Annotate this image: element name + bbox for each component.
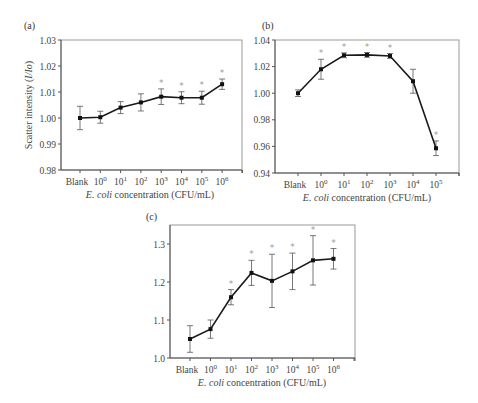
figure: (a)0.980.991.001.011.021.03Blank10010110… [0,0,478,403]
y-tick-label: 0.98 [253,115,270,125]
data-point-marker [98,115,102,119]
data-point-marker [200,96,204,100]
x-tick-label: 106 [327,363,341,375]
x-tick-label: Blank [66,177,89,187]
x-tick-label: 102 [134,175,148,187]
data-point-marker [188,337,192,341]
x-tick-label: 105 [195,175,209,187]
data-point-marker [119,106,123,110]
x-tick-label: 101 [338,178,352,190]
data-point-marker [342,53,346,57]
plot-frame [61,40,242,170]
y-tick-label: 1.00 [39,114,56,124]
data-point-marker [78,116,82,120]
y-tick-label: 1.02 [39,62,56,72]
x-tick-label: 105 [430,178,444,190]
significance-asterisk: * [365,42,370,52]
x-tick-label: 104 [407,178,421,190]
significance-asterisk: * [290,242,295,252]
x-tick-label: 104 [286,363,300,375]
panel-label: (c) [146,211,157,223]
x-tick-label: 100 [204,363,218,375]
plot-frame [170,225,355,358]
data-point-marker [159,95,163,99]
x-tick-label: 100 [315,178,329,190]
y-tick-label: 0.94 [253,169,270,179]
chart-panel-a: (a)0.980.991.001.011.021.03Blank10010110… [23,20,242,201]
data-point-marker [434,146,438,150]
significance-asterisk: * [200,80,205,90]
x-tick-label: 104 [175,175,189,187]
x-axis-title: E. coli concentration (CFU/mL) [302,192,431,204]
significance-asterisk: * [434,130,439,140]
x-tick-label: 101 [225,363,239,375]
y-tick-label: 1.01 [39,88,56,98]
y-tick-label: 0.99 [39,140,56,150]
data-point-marker [332,257,336,261]
significance-asterisk: * [249,249,254,259]
x-tick-label: 103 [155,175,169,187]
significance-asterisk: * [220,68,225,78]
data-point-marker [250,271,254,275]
data-point-marker [229,295,233,299]
chart-panel-c: (c)1.01.11.21.3Blank10010110210310410510… [146,211,355,389]
significance-asterisk: * [342,42,347,52]
x-tick-label: 102 [361,178,375,190]
data-point-marker [291,269,295,273]
y-tick-label: 1.03 [39,36,56,46]
y-tick-label: 1.02 [253,62,270,72]
data-point-marker [139,100,143,104]
x-tick-label: Blank [176,365,199,375]
data-point-marker [220,82,224,86]
y-tick-label: 0.96 [253,142,270,152]
data-point-marker [411,79,415,83]
chart-panel-b: (b)0.940.960.981.001.021.04Blank10010110… [253,20,459,204]
data-point-marker [365,53,369,57]
plot-frame [275,40,459,173]
x-tick-label: 103 [266,363,280,375]
x-axis-title: E. coli concentration (CFU/mL) [85,189,214,201]
data-point-marker [270,279,274,283]
x-tick-label: 100 [94,175,108,187]
x-tick-label: 102 [245,363,259,375]
x-tick-label: 101 [114,175,128,187]
significance-asterisk: * [179,81,184,91]
significance-asterisk: * [388,43,393,53]
y-tick-label: 1.04 [253,36,270,46]
data-point-marker [319,67,323,71]
data-point-marker [180,96,184,100]
significance-asterisk: * [311,225,316,235]
significance-asterisk: * [331,238,336,248]
data-point-marker [311,258,315,262]
significance-asterisk: * [159,78,164,88]
y-tick-label: 1.00 [253,89,270,99]
y-tick-label: 1.3 [153,240,165,250]
significance-asterisk: * [270,243,275,253]
panel-label: (b) [262,20,274,32]
y-axis-title: Scatter intensity (I/Io) [23,61,35,149]
y-tick-label: 0.98 [39,166,56,176]
data-point-marker [388,54,392,58]
x-tick-label: 106 [216,175,230,187]
data-point-marker [209,327,213,331]
y-tick-label: 1.0 [153,354,165,364]
panel-label: (a) [24,20,35,32]
x-axis-title: E. coli concentration (CFU/mL) [197,377,326,389]
data-point-marker [296,91,300,95]
data-line [190,259,334,339]
significance-asterisk: * [229,279,234,289]
x-tick-label: 105 [307,363,321,375]
x-tick-label: 103 [384,178,398,190]
significance-asterisk: * [319,48,324,58]
y-tick-label: 1.2 [153,278,165,288]
x-tick-label: Blank [284,180,307,190]
y-tick-label: 1.1 [153,316,165,326]
